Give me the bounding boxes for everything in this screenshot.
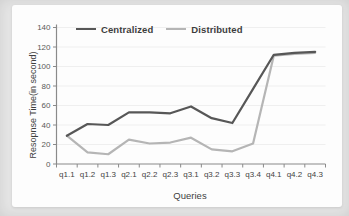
y-tick-label: 120 [37, 43, 51, 52]
centralized-line-marker [76, 28, 96, 31]
y-tick-label: 60 [42, 101, 51, 110]
x-category-label: q3.3 [225, 170, 241, 179]
legend-item-centralized: Centralized [76, 24, 153, 35]
x-category-label: q1.3 [100, 170, 116, 179]
x-axis-title: Queries [173, 190, 206, 201]
y-axis-title: Resopnse Time(in second) [28, 35, 38, 175]
y-tick-label: 140 [37, 23, 51, 32]
series-line-centralized [67, 52, 315, 136]
axes [53, 25, 326, 168]
x-category-label: q1.1 [59, 170, 75, 179]
distributed-line-marker [166, 28, 186, 31]
y-tick-label: 80 [42, 82, 51, 91]
x-category-label: q2.3 [163, 170, 179, 179]
legend-label-distributed: Distributed [191, 24, 242, 35]
x-category-label: q4.3 [307, 170, 323, 179]
series-line-distributed [67, 53, 315, 154]
y-tick-label: 0 [46, 160, 51, 169]
x-category-label: q3.2 [204, 170, 220, 179]
y-tick-label: 100 [37, 62, 51, 71]
x-category-label: q4.1 [266, 170, 282, 179]
gridlines [57, 28, 326, 145]
x-category-label: q4.2 [287, 170, 303, 179]
figure-background: Centralized Distributed Resopnse Time(in… [0, 0, 349, 216]
x-category-label: q2.1 [121, 170, 137, 179]
x-category-label: q2.2 [142, 170, 158, 179]
x-category-label: q1.2 [80, 170, 96, 179]
series-lines [67, 52, 315, 154]
legend-label-centralized: Centralized [101, 24, 153, 35]
x-category-label: q3.1 [183, 170, 199, 179]
x-category-label: q3.4 [245, 170, 261, 179]
y-tick-label: 40 [42, 121, 51, 130]
y-tick-label: 20 [42, 140, 51, 149]
legend-item-distributed: Distributed [166, 24, 242, 35]
legend: Centralized Distributed [76, 23, 243, 35]
